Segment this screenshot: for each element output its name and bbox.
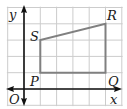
vertex-label-q: Q: [108, 74, 119, 89]
vertex-label-p: P: [29, 74, 39, 89]
x-axis-label: x: [110, 92, 118, 107]
y-axis-label: y: [8, 7, 17, 22]
coordinate-diagram: y x O P Q R S: [0, 0, 127, 109]
vertex-label-s: S: [30, 29, 39, 44]
origin-label: O: [9, 92, 20, 107]
y-axis-arrow-up-icon: [21, 5, 27, 13]
vertex-label-r: R: [106, 8, 117, 23]
